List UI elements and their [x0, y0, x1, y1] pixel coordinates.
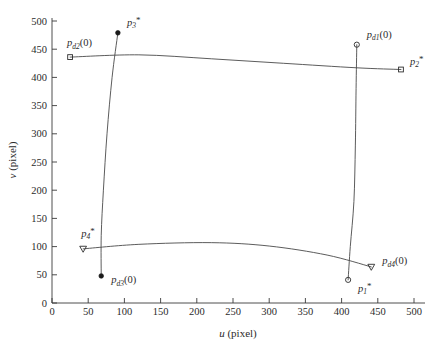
x-tick-label: 350: [298, 306, 314, 317]
trajectory-top-edge-trajectory: [70, 55, 401, 70]
x-axis-ticks: 050100150200250300350400450500: [49, 298, 422, 317]
y-axis-title: v (pixel): [6, 141, 19, 178]
x-tick-label: 100: [117, 306, 133, 317]
x-tick-label: 200: [189, 306, 205, 317]
x-tick-label: 0: [49, 306, 54, 317]
x-tick-label: 500: [406, 306, 422, 317]
label-p3star: p3*: [126, 15, 141, 31]
x-tick-label: 400: [334, 306, 350, 317]
marker-p3star: [116, 31, 121, 36]
y-tick-label: 400: [31, 72, 47, 83]
y-tick-label: 150: [31, 213, 47, 224]
chart-figure: 050100150200250300350400450500 050100150…: [0, 0, 440, 357]
y-tick-label: 50: [37, 269, 48, 280]
y-tick-label: 450: [31, 44, 47, 55]
label-pd1: pd1(0): [366, 29, 392, 43]
marker-pd3: [99, 274, 104, 279]
x-tick-label: 150: [153, 306, 169, 317]
x-tick-label: 250: [225, 306, 241, 317]
data-point-markers: [68, 31, 404, 283]
label-pd3: pd3(0): [110, 274, 136, 288]
trajectory-bottom-edge-trajectory: [83, 243, 371, 267]
y-tick-label: 350: [31, 100, 47, 111]
x-tick-label: 300: [261, 306, 277, 317]
label-p1star: p1*: [357, 281, 372, 297]
y-tick-label: 500: [31, 16, 47, 27]
label-p2star: p2*: [409, 54, 424, 70]
y-tick-label: 0: [42, 298, 47, 309]
label-pd4: pd4(0): [381, 255, 407, 269]
scatter-plot-svg: 050100150200250300350400450500 050100150…: [0, 0, 440, 357]
x-tick-label: 50: [83, 306, 94, 317]
label-p4star: p4*: [80, 226, 95, 242]
y-tick-label: 100: [31, 241, 47, 252]
trajectory-left-edge-trajectory: [101, 33, 118, 276]
y-tick-label: 250: [31, 157, 47, 168]
x-axis-title: u (pixel): [219, 327, 257, 340]
y-tick-label: 300: [31, 128, 47, 139]
data-point-labels: p1*p2*p3*p4*pd1(0)pd2(0)pd3(0)pd4(0): [66, 15, 424, 297]
x-tick-label: 450: [370, 306, 386, 317]
y-tick-label: 200: [31, 185, 47, 196]
y-axis-ticks: 050100150200250300350400450500: [31, 16, 57, 309]
trajectory-curves: [70, 33, 401, 280]
trajectory-right-edge-trajectory: [348, 45, 357, 280]
label-pd2: pd2(0): [66, 37, 92, 51]
